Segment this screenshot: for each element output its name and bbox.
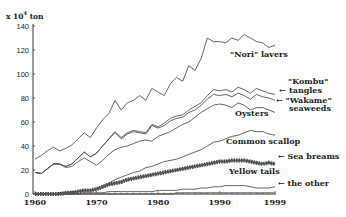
series-label: Common scallop [226, 137, 300, 146]
y-tick-label: 80 [21, 94, 29, 103]
y-tick-label: 100 [16, 70, 29, 79]
series-label: "Nori" lavers [230, 50, 288, 59]
series-label: tangles [289, 86, 322, 95]
series-label: Oysters [235, 109, 269, 118]
x-tick-label: 1970 [85, 197, 108, 207]
series-label: ← Sea breams [278, 152, 339, 161]
x-tick-label: 1990 [208, 197, 231, 207]
y-tick-label: 120 [16, 46, 29, 55]
series-label: ← the other [278, 179, 329, 188]
y-axis-unit-label: x 104 ton [6, 10, 44, 21]
y-tick-label: 60 [21, 118, 29, 127]
y-tick-label: 140 [16, 22, 29, 31]
x-tick-label: 1999 [264, 197, 287, 207]
x-tick-label: 1960 [24, 197, 47, 207]
y-tick-label: 20 [21, 166, 29, 175]
label-arrow: ← [279, 86, 286, 95]
x-tick-label: 1980 [147, 197, 170, 207]
y-tick-label: 40 [21, 142, 29, 151]
series-label: seaweeds [289, 104, 331, 113]
series-label: Yellow tails [229, 167, 280, 176]
